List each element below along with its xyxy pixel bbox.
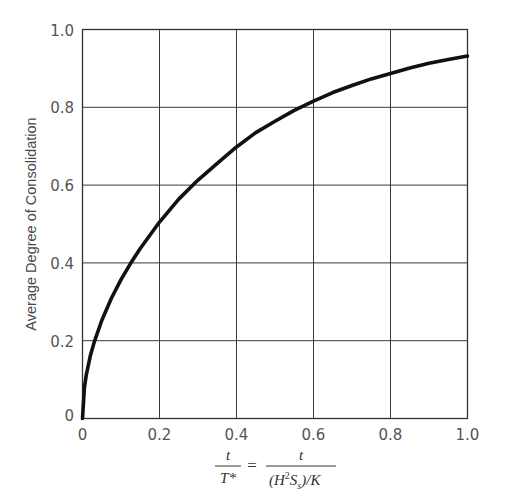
x-tick-label: 1.0 <box>456 426 480 444</box>
svg-text:t: t <box>299 447 304 463</box>
svg-text:t: t <box>226 447 231 463</box>
svg-text:T*: T* <box>220 470 236 486</box>
consolidation-curve <box>83 56 468 419</box>
x-tick-label: 0.4 <box>225 426 249 444</box>
svg-text:=: = <box>247 456 257 475</box>
x-axis-label: t T* = t (H2Ss)/K <box>215 447 336 491</box>
y-axis-label: Average Degree of Consolidation <box>23 117 39 330</box>
consolidation-chart: 00.20.40.60.81.0 00.20.40.60.81.0 Averag… <box>0 0 506 499</box>
grid-lines <box>83 30 468 419</box>
x-axis-ticks: 00.20.40.60.81.0 <box>78 426 480 444</box>
x-tick-label: 0.6 <box>302 426 326 444</box>
y-tick-label: 1.0 <box>50 22 74 40</box>
x-tick-label: 0.8 <box>379 426 403 444</box>
y-tick-label: 0.6 <box>50 177 74 195</box>
y-tick-label: 0.4 <box>50 255 74 273</box>
y-tick-label: 0.8 <box>50 99 74 117</box>
plot-frame <box>83 30 468 419</box>
x-tick-label: 0.2 <box>148 426 172 444</box>
y-axis-ticks: 00.20.40.60.81.0 <box>50 22 74 425</box>
x-tick-label: 0 <box>78 426 88 444</box>
y-tick-label: 0.2 <box>50 333 74 351</box>
svg-text:(H2Ss)/K: (H2Ss)/K <box>269 470 321 491</box>
y-tick-label: 0 <box>64 407 74 425</box>
